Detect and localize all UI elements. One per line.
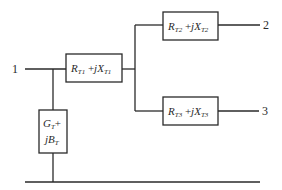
node-2-label: 2 xyxy=(263,18,269,32)
circuit-diagram: 1 RT1 +jXT1 RT2 +jXT2 2 RT3 +jXT3 3 GT+ … xyxy=(0,0,282,190)
node-1-label: 1 xyxy=(12,62,18,76)
node-3-label: 3 xyxy=(262,104,268,118)
